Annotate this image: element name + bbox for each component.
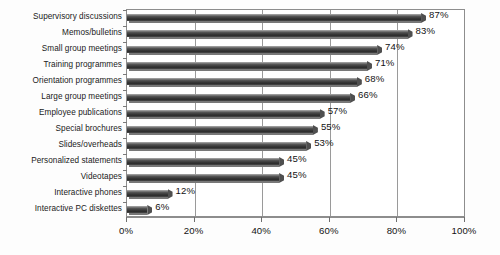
bar-end-cap xyxy=(357,77,362,87)
bar-body xyxy=(127,94,350,101)
y-axis-tick xyxy=(123,138,127,139)
category-label: Interactive phones xyxy=(0,185,122,201)
horizontal-bar-chart: Supervisory discussionsMemos/bulletinsSm… xyxy=(0,0,500,255)
category-label: Memos/bulletins xyxy=(0,25,122,41)
y-axis-tick xyxy=(123,106,127,107)
bar-body xyxy=(127,206,147,213)
bar-shadow xyxy=(129,165,279,167)
bar-shadow xyxy=(129,69,367,71)
bar-value-label: 74% xyxy=(385,41,405,52)
bar xyxy=(127,206,147,214)
category-label: Slides/overheads xyxy=(0,137,122,153)
plot-area: 87%83%74%71%68%66%57%55%53%45%45%12%6% xyxy=(126,9,465,217)
bar xyxy=(127,94,350,102)
bar-value-label: 6% xyxy=(155,201,169,212)
bar-end-cap xyxy=(279,173,284,183)
bar-end-cap xyxy=(367,61,372,71)
bar-shadow xyxy=(129,197,168,199)
bar-row: 83% xyxy=(127,26,464,42)
category-label: Orientation programmes xyxy=(0,73,122,89)
category-label: Large group meetings xyxy=(0,89,122,105)
bar-row: 12% xyxy=(127,186,464,202)
bar-row: 71% xyxy=(127,58,464,74)
bar-end-cap xyxy=(168,189,173,199)
y-axis-tick xyxy=(123,154,127,155)
bar-body xyxy=(127,190,168,197)
category-axis: Supervisory discussionsMemos/bulletinsSm… xyxy=(0,9,122,217)
bar-row: 45% xyxy=(127,170,464,186)
x-axis-tick xyxy=(464,217,465,222)
category-label: Training programmes xyxy=(0,57,122,73)
x-axis-tick-label: 40% xyxy=(251,225,271,236)
x-axis: 0%20%40%60%80%100% xyxy=(126,217,465,253)
x-axis-tick xyxy=(261,217,262,222)
y-axis-tick xyxy=(123,26,127,27)
bar-value-label: 57% xyxy=(328,105,348,116)
bar-body xyxy=(127,126,313,133)
bar-end-cap xyxy=(320,109,325,119)
bar-body xyxy=(127,30,408,37)
bar-body xyxy=(127,174,279,181)
category-label: Supervisory discussions xyxy=(0,9,122,25)
bar-end-cap xyxy=(279,157,284,167)
bar-shadow xyxy=(129,85,357,87)
bar-value-label: 87% xyxy=(429,9,449,20)
bar-end-cap xyxy=(313,125,318,135)
y-axis-tick xyxy=(123,186,127,187)
bar xyxy=(127,126,313,134)
x-axis-tick xyxy=(396,217,397,222)
bar-shadow xyxy=(129,117,320,119)
category-label: Interactive PC diskettes xyxy=(0,201,122,217)
bar-end-cap xyxy=(350,93,355,103)
x-axis-tick xyxy=(194,217,195,222)
bar-body xyxy=(127,14,421,21)
bar xyxy=(127,158,279,166)
category-label: Videotapes xyxy=(0,169,122,185)
y-axis-tick xyxy=(123,74,127,75)
bar-row: 53% xyxy=(127,138,464,154)
x-axis-line xyxy=(126,217,465,218)
bar-value-label: 12% xyxy=(176,185,196,196)
bar-shadow xyxy=(129,37,408,39)
x-axis-tick xyxy=(329,217,330,222)
bar-body xyxy=(127,46,377,53)
bar xyxy=(127,174,279,182)
bar-end-cap xyxy=(408,29,413,39)
bar-shadow xyxy=(129,181,279,183)
bar-row: 57% xyxy=(127,106,464,122)
category-label: Small group meetings xyxy=(0,41,122,57)
bar-row: 87% xyxy=(127,10,464,26)
bar xyxy=(127,78,357,86)
x-axis-tick-label: 100% xyxy=(452,225,477,236)
y-axis-tick xyxy=(123,90,127,91)
bar-row: 68% xyxy=(127,74,464,90)
category-label: Employee publications xyxy=(0,105,122,121)
bar-row: 55% xyxy=(127,122,464,138)
bar-row: 45% xyxy=(127,154,464,170)
bar-body xyxy=(127,142,306,149)
bar-shadow xyxy=(129,213,147,215)
bar-body xyxy=(127,110,320,117)
bar-shadow xyxy=(129,21,421,23)
bar-value-label: 83% xyxy=(416,25,436,36)
bar-shadow xyxy=(129,149,306,151)
bar-body xyxy=(127,158,279,165)
bar-row: 74% xyxy=(127,42,464,58)
x-axis-tick xyxy=(126,217,127,222)
y-axis-tick xyxy=(123,10,127,11)
bar-value-label: 68% xyxy=(365,73,385,84)
y-axis-tick xyxy=(123,202,127,203)
bar-end-cap xyxy=(421,13,426,23)
y-axis-tick xyxy=(123,122,127,123)
x-axis-tick-label: 60% xyxy=(319,225,339,236)
y-axis-tick xyxy=(123,170,127,171)
bar-value-label: 71% xyxy=(375,57,395,68)
x-axis-tick-label: 20% xyxy=(184,225,204,236)
bar-end-cap xyxy=(306,141,311,151)
bar-body xyxy=(127,78,357,85)
bar-end-cap xyxy=(377,45,382,55)
bar-value-label: 53% xyxy=(314,137,334,148)
bar xyxy=(127,110,320,118)
bar-row: 6% xyxy=(127,202,464,218)
bar xyxy=(127,30,408,38)
